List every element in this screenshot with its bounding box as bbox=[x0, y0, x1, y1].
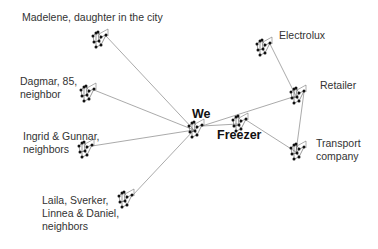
label-freezer: Freezer bbox=[217, 128, 261, 142]
label-dagmar: Dagmar, 85, neighbor bbox=[20, 75, 77, 101]
node-transport-icon bbox=[290, 141, 307, 161]
edge-electrolux-retailer bbox=[270, 44, 296, 96]
label-retailer: Retailer bbox=[320, 79, 356, 92]
label-ingrid-gunnar: Ingrid & Gunnar, neighbors bbox=[23, 130, 99, 156]
node-dagmar-icon bbox=[80, 83, 97, 103]
edge-dagmar-we bbox=[94, 90, 194, 130]
node-electrolux-icon bbox=[256, 37, 273, 57]
label-transport-company: Transport company bbox=[316, 137, 361, 163]
edge-ingrid-we bbox=[92, 130, 194, 146]
edge-laila-we bbox=[132, 130, 194, 196]
edge-madelene-we bbox=[106, 36, 194, 130]
node-laila-icon bbox=[118, 189, 135, 209]
label-laila-family: Laila, Sverker, Linnea & Daniel, neighbo… bbox=[42, 194, 119, 233]
label-electrolux: Electrolux bbox=[279, 29, 325, 42]
label-we: We bbox=[192, 107, 211, 121]
node-madelene-icon bbox=[92, 29, 109, 49]
label-madelene: Madelene, daughter in the city bbox=[22, 11, 163, 24]
